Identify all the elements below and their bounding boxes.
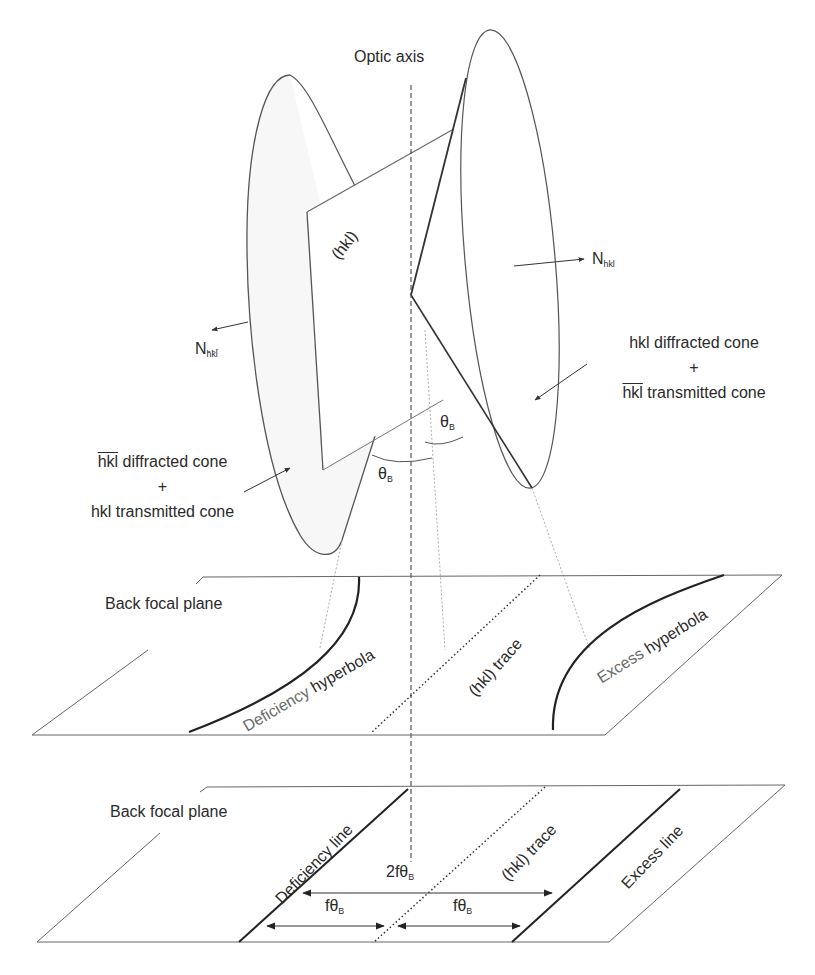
right-caption-bar-hkl: hkl: [622, 384, 642, 401]
left-caption-line2: +: [50, 474, 275, 499]
theta-arc-lower: [372, 455, 432, 462]
normal-hkl-arrow: [514, 259, 584, 266]
optic-axis-label: Optic axis: [354, 48, 424, 66]
theta-arc-upper: [425, 437, 463, 444]
right-cone: [411, 26, 575, 492]
normal-bar-hkl-sub: h̄k̄l̄: [207, 349, 218, 359]
dim-right-sub: B: [466, 906, 472, 916]
normal-hkl-sub: hkl: [604, 259, 615, 269]
left-caption-line1: hkl diffracted cone: [50, 449, 275, 474]
dim-total-label: 2fθB: [386, 863, 414, 881]
normal-hkl-base: N: [592, 250, 604, 267]
bottom-plane-label: Back focal plane: [110, 803, 227, 821]
right-caption-line3-rest: transmitted cone: [643, 384, 766, 401]
middle-plane-label: Back focal plane: [105, 595, 222, 613]
right-caption-line2: +: [584, 355, 804, 380]
normal-bar-hkl-label: Nh̄k̄l̄: [195, 340, 218, 358]
dim-left-sub: B: [338, 906, 344, 916]
right-caption-arrow: [535, 364, 587, 400]
dim-right-label: fθB: [453, 897, 472, 915]
right-caption-line3: hkl transmitted cone: [584, 380, 804, 405]
left-cone-caption: hkl diffracted cone + hkl transmitted co…: [50, 449, 275, 524]
left-caption-bar-hkl: hkl: [98, 453, 118, 470]
left-caption-line1-rest: diffracted cone: [118, 453, 227, 470]
dim-total-base: 2fθ: [386, 863, 408, 880]
theta-upper-sub: B: [449, 422, 455, 432]
right-cone-caption: hkl diffracted cone + hkl transmitted co…: [584, 330, 804, 405]
theta-lower-sub: B: [387, 474, 393, 484]
theta-b-lower-label: θB: [378, 465, 393, 483]
theta-b-upper-label: θB: [440, 413, 455, 431]
dim-right-base: fθ: [453, 897, 466, 914]
dim-left-label: fθB: [325, 897, 344, 915]
right-caption-line1: hkl diffracted cone: [584, 330, 804, 355]
theta-upper-base: θ: [440, 413, 449, 430]
normal-bar-hkl-base: N: [195, 340, 207, 357]
normal-hkl-label: Nhkl: [592, 250, 615, 268]
left-caption-line3: hkl transmitted cone: [50, 499, 275, 524]
normal-bar-hkl-arrow: [212, 322, 248, 330]
dim-total-sub: B: [408, 872, 414, 882]
theta-lower-base: θ: [378, 465, 387, 482]
dim-left-base: fθ: [325, 897, 338, 914]
